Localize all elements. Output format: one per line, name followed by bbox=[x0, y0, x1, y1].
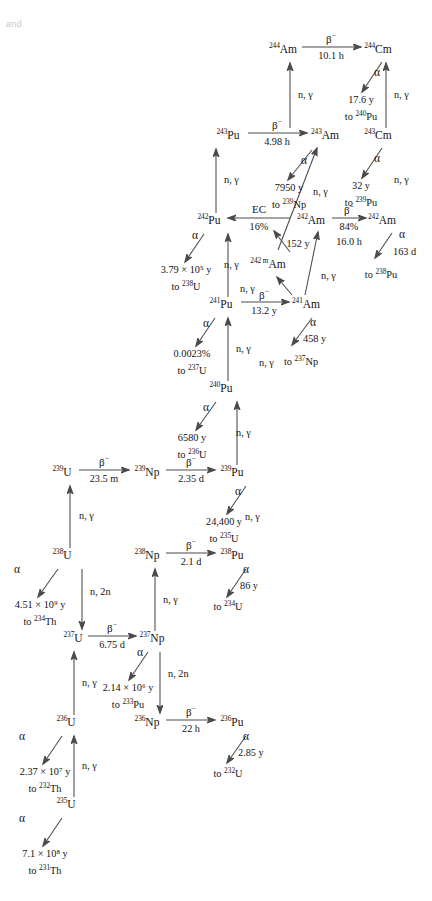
capture-label-u237: n, γ bbox=[82, 677, 97, 689]
nuclide-cm244: 244Cm bbox=[364, 42, 391, 56]
nuclide-np239: 239Np bbox=[135, 465, 160, 479]
transition-mode-u239-np239: β− bbox=[99, 455, 109, 468]
alpha-product-pu241: to 237U bbox=[178, 364, 207, 377]
alpha-halflife-cm243: 32 y bbox=[352, 180, 370, 192]
alpha-symbol-u236: α bbox=[19, 730, 25, 743]
alpha-symbol-pu240: α bbox=[203, 401, 209, 414]
alpha-halflife-am243: 7950 y bbox=[275, 182, 303, 194]
nuclide-pu242: 242Pu bbox=[198, 213, 221, 227]
transition-mode-np238-pu238: β− bbox=[186, 538, 196, 551]
alpha-symbol-u235: α bbox=[19, 812, 25, 825]
nuclide-np238: 238Np bbox=[135, 548, 160, 562]
alpha-halflife-cm242: 163 d bbox=[393, 246, 416, 258]
alpha-halflife-pu238: 86 y bbox=[240, 580, 258, 592]
capture-label-cm244: n, γ bbox=[394, 89, 409, 101]
nuclide-u239: 239U bbox=[52, 465, 71, 479]
nuclide-np236: 236Np bbox=[135, 715, 160, 729]
transition-halflife-u237-np237: 6.75 d bbox=[99, 639, 125, 651]
transition-halflife-pu241-am241: 13.2 y bbox=[251, 305, 277, 317]
alpha-symbol-cm242: α bbox=[399, 228, 405, 241]
capture-label-cm243: n, γ bbox=[394, 174, 409, 186]
corner-note: and bbox=[6, 19, 22, 29]
alpha-product-np237: to 233Pu bbox=[112, 698, 144, 711]
capture-label-n2n-np237: n, 2n bbox=[168, 668, 189, 680]
transition-branch-am242-pu242: 16% bbox=[250, 221, 269, 233]
alpha-symbol-cm244: α bbox=[374, 66, 380, 79]
arrow-alpha-am243 bbox=[288, 150, 312, 180]
alpha-halflife-cm244: 17.6 y bbox=[348, 94, 374, 106]
transition-mode-pu243-am243: β− bbox=[272, 118, 282, 131]
arrow-alpha-u236 bbox=[43, 736, 62, 764]
transition-halflife-np238-pu238: 2.1 d bbox=[181, 556, 202, 568]
alpha-symbol-pu241: α bbox=[203, 317, 209, 330]
alpha-product-u236: to 232Th bbox=[29, 782, 62, 795]
capture-label-am241: n, γ bbox=[259, 357, 274, 369]
capture-label-pu240: n, γ bbox=[236, 427, 251, 439]
nuclide-am243: 243Am bbox=[311, 128, 339, 142]
alpha-halflife-am242m: 152 y bbox=[286, 238, 309, 250]
nuclide-pu236: 236Pu bbox=[221, 715, 244, 729]
alpha-product-pu236: to 232U bbox=[214, 767, 243, 780]
arrow-capture-am241-am242m bbox=[277, 277, 292, 295]
transition-branch-am242-cm242: 84% bbox=[340, 221, 359, 233]
alpha-halflife-pu239: 24,400 y bbox=[206, 516, 242, 528]
arrow-alpha-u235 bbox=[43, 818, 62, 846]
capture-label-u239: n, γ bbox=[79, 510, 94, 522]
alpha-product-u238: to 234Th bbox=[24, 615, 57, 628]
capture-label-pu243: n, γ bbox=[224, 174, 239, 186]
alpha-symbol-am241: α bbox=[310, 316, 316, 329]
alpha-symbol-np237: α bbox=[137, 646, 143, 659]
nuclide-am242: 242Am bbox=[297, 213, 325, 227]
alpha-product-cm243: to 239Pu bbox=[345, 196, 377, 209]
nuclide-pu239: 239Pu bbox=[221, 465, 244, 479]
arrow-alpha-u238 bbox=[38, 569, 58, 597]
alpha-halflife-am241: 458 y bbox=[303, 333, 326, 345]
alpha-product-am241: to 237Np bbox=[284, 355, 318, 368]
nuclide-u235: 235U bbox=[56, 797, 75, 811]
nuclide-am241: 241Am bbox=[292, 297, 320, 311]
alpha-halflife-pu242: 3.79 × 10⁵ y bbox=[161, 264, 212, 276]
alpha-product-cm244: to 240Pu bbox=[345, 110, 377, 123]
transition-mode-pu241-am241: β− bbox=[259, 288, 269, 301]
nuclide-u236: 236U bbox=[56, 715, 75, 729]
capture-label-am242m: n, γ bbox=[240, 283, 255, 295]
nuclide-np237: 237Np bbox=[140, 631, 165, 645]
nuclide-pu241: 241Pu bbox=[210, 297, 233, 311]
transition-halflife-np236-pu236: 22 h bbox=[182, 723, 200, 735]
alpha-symbol-pu242: α bbox=[192, 229, 198, 242]
transition-mode-am244-cm244: β− bbox=[326, 32, 336, 45]
capture-label-pu241: n, γ bbox=[236, 343, 251, 355]
capture-label-am243: n, γ bbox=[313, 186, 328, 198]
alpha-symbol-am243: α bbox=[301, 154, 307, 167]
alpha-product-pu240: to 236U bbox=[178, 448, 207, 461]
capture-label-np238: n, γ bbox=[163, 594, 178, 606]
alpha-symbol-pu236: α bbox=[243, 730, 249, 743]
nuclide-u237: 237U bbox=[63, 631, 82, 645]
capture-label-n2n-u238: n, 2n bbox=[90, 586, 111, 598]
nuclide-pu243: 243Pu bbox=[217, 128, 240, 142]
nuclide-u238: 238U bbox=[52, 548, 71, 562]
transition-halflife-pu243-am243: 4.98 h bbox=[264, 136, 290, 148]
alpha-halflife-pu236: 2.85 y bbox=[238, 747, 264, 759]
nuclide-cm242: 242Am bbox=[368, 213, 396, 227]
alpha-halflife-u238: 4.51 × 10⁹ y bbox=[15, 599, 66, 611]
nuclide-am242m: 242 mAm bbox=[250, 257, 285, 271]
transition-halflife-am242-cm242: 16.0 h bbox=[336, 236, 362, 248]
alpha-product-u235: to 231Th bbox=[29, 864, 62, 877]
nuclide-am244: 244Am bbox=[269, 42, 297, 56]
alpha-halflife-np237: 2.14 × 10⁶ y bbox=[103, 682, 154, 694]
alpha-symbol-pu239: α bbox=[235, 485, 241, 498]
alpha-symbol-pu238: α bbox=[243, 563, 249, 576]
alpha-halflife-pu241: 0.0023% bbox=[174, 348, 211, 360]
transition-halflife-u239-np239: 23.5 m bbox=[90, 473, 119, 485]
alpha-halflife-u236: 2.37 × 10⁷ y bbox=[20, 766, 71, 778]
transition-mode-np236-pu236: β− bbox=[186, 705, 196, 718]
alpha-product-cm242: to 238Pu bbox=[365, 268, 397, 281]
transition-mode-am242-pu242: EC bbox=[252, 203, 266, 215]
decay-chain-diagram: and 244Am 244Cm 243Cm 243Pu 243Am 242Pu … bbox=[0, 0, 432, 901]
alpha-product-pu242: to 238U bbox=[172, 280, 201, 293]
alpha-product-am243: to 239Np bbox=[272, 198, 306, 211]
capture-label-u236: n, γ bbox=[82, 760, 97, 772]
transition-halflife-np239-pu239: 2.35 d bbox=[178, 473, 204, 485]
alpha-symbol-u238: α bbox=[14, 563, 20, 576]
